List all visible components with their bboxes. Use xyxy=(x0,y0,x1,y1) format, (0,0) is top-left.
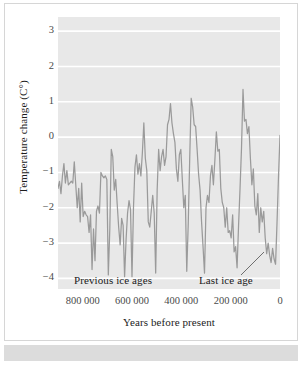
y-tick-1: 1 xyxy=(30,96,54,107)
annotation-leader-line xyxy=(240,250,270,276)
y-tick-−4: −4 xyxy=(30,272,54,283)
y-tick-−1: −1 xyxy=(30,166,54,177)
figure-root: 3210−1−2−3−4 Temperature change (C°) 800… xyxy=(0,0,304,365)
y-axis-tick-labels: 3210−1−2−3−4 xyxy=(27,17,54,289)
x-tick-200000: 200 000 xyxy=(214,296,248,307)
x-tick-0: 0 xyxy=(277,296,282,307)
temperature-series-line xyxy=(58,89,280,276)
x-axis-label: Years before present xyxy=(58,316,280,328)
chart-svg xyxy=(58,17,280,289)
y-tick-−2: −2 xyxy=(30,202,54,213)
y-tick-2: 2 xyxy=(30,61,54,72)
y-tick-3: 3 xyxy=(30,25,54,36)
chart-plot-area xyxy=(58,17,280,289)
annotation-previous-ice-ages: Previous ice ages xyxy=(74,274,152,286)
x-axis-tick-labels: 800 000600 000400 000200 0000 xyxy=(58,296,280,312)
footer-band xyxy=(4,345,298,361)
x-tick-800000: 800 000 xyxy=(66,296,100,307)
x-tick-600000: 600 000 xyxy=(115,296,149,307)
y-tick-−3: −3 xyxy=(30,237,54,248)
y-axis-label: Temperature change (C°) xyxy=(17,37,29,237)
y-tick-0: 0 xyxy=(30,131,54,142)
x-tick-400000: 400 000 xyxy=(164,296,198,307)
